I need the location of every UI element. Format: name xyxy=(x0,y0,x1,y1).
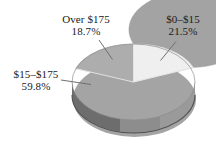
slice-label-15-175: $15–$175 59.8% xyxy=(2,68,70,93)
slice-percent-0-15: 21.5% xyxy=(155,25,211,37)
slice-category-over-175: Over $175 xyxy=(49,13,123,25)
pie-chart: $0–$15 21.5% Over $175 18.7% $15–$175 59… xyxy=(0,0,216,151)
slice-category-15-175: $15–$175 xyxy=(2,68,70,80)
slice-label-over-175: Over $175 18.7% xyxy=(49,13,123,38)
slice-percent-over-175: 18.7% xyxy=(49,25,123,37)
slice-label-0-15: $0–$15 21.5% xyxy=(155,13,211,38)
slice-category-0-15: $0–$15 xyxy=(155,13,211,25)
slice-percent-15-175: 59.8% xyxy=(2,80,70,92)
